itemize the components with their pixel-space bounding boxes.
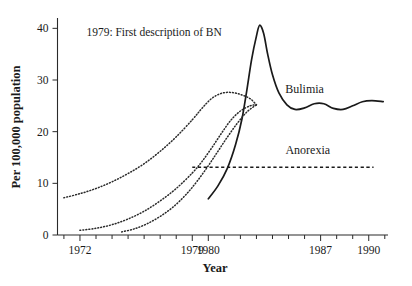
x-tick-label: 1972 <box>68 244 91 256</box>
y-tick-label: 40 <box>37 22 49 34</box>
x-tick-label: 1987 <box>309 244 332 256</box>
y-tick-label: 10 <box>37 177 49 189</box>
y-tick-label: 20 <box>37 126 49 138</box>
series-label-anorexia: Anorexia <box>285 143 330 157</box>
chart-figure: 010203040 19721979198019871990 BulimiaAn… <box>0 0 412 286</box>
chart-annotation-0: 1979: First description of BN <box>86 26 222 39</box>
x-tick-label: 1980 <box>197 244 220 256</box>
series-label-bulimia: Bulimia <box>285 82 324 96</box>
y-tick-label: 0 <box>43 229 49 241</box>
chart-annotations: 1979: First description of BN <box>86 26 222 39</box>
eating-disorder-incidence-chart: 010203040 19721979198019871990 BulimiaAn… <box>0 0 412 286</box>
x-tick-label: 1990 <box>357 244 380 256</box>
y-axis-title: Per 100,000 population <box>9 65 23 188</box>
x-axis-title: Year <box>203 261 228 275</box>
y-tick-label: 30 <box>37 74 49 86</box>
